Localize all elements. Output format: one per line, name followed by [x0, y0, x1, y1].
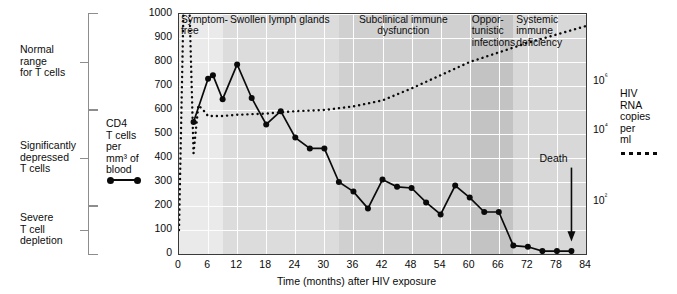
x-tick-78: 78 [541, 258, 571, 270]
hiv-rna-legend-dash [621, 152, 661, 155]
y-tick-800: 800 [128, 54, 172, 66]
y-tick-500: 500 [128, 126, 172, 138]
phase-label-4: Systemic immune deficiency [516, 14, 585, 48]
right-tick-0: 10⁶ [593, 72, 608, 86]
bracket-0 [88, 13, 98, 111]
y-tick-100: 100 [128, 222, 172, 234]
y-tick-400: 400 [128, 150, 172, 162]
x-tick-72: 72 [512, 258, 542, 270]
phase-label-1: Swollen lymph glands [224, 14, 336, 25]
x-tick-24: 24 [279, 258, 309, 270]
y-tick-0: 0 [128, 246, 172, 258]
x-tick-84: 84 [570, 258, 600, 270]
x-tick-54: 54 [425, 258, 455, 270]
plot-area [178, 13, 587, 255]
y-tick-900: 900 [128, 30, 172, 42]
phase-label-0: Symptom- free [181, 14, 221, 37]
x-tick-48: 48 [396, 258, 426, 270]
x-axis-title-text: Time (months) after HIV exposure [277, 275, 436, 287]
hiv-progression-chart: Normal range for T cellsSignificantly de… [0, 0, 677, 294]
right-axis-title: HIV RNA copies per ml [620, 88, 650, 146]
y-tick-700: 700 [128, 78, 172, 90]
right-tick-1: 10⁴ [593, 121, 608, 135]
death-arrow-head [567, 231, 575, 241]
phase-label-3: Oppor- tunistic infections [472, 14, 512, 48]
y-tick-200: 200 [128, 198, 172, 210]
x-tick-6: 6 [192, 258, 222, 270]
bracket-2 [88, 205, 98, 255]
x-tick-60: 60 [454, 258, 484, 270]
phase-label-2: Subclinical immune dysfunction [340, 14, 467, 37]
bracket-label-2: Severe T cell depletion [20, 212, 82, 247]
bracket-1 [88, 109, 98, 207]
x-tick-18: 18 [250, 258, 280, 270]
y-tick-600: 600 [128, 102, 172, 114]
death-label: Death [539, 152, 567, 164]
x-tick-66: 66 [483, 258, 513, 270]
bracket-label-0: Normal range for T cells [20, 44, 82, 79]
x-tick-30: 30 [308, 258, 338, 270]
x-tick-12: 12 [221, 258, 251, 270]
bracket-label-1: Significantly depressed T cells [20, 140, 82, 175]
y-tick-300: 300 [128, 174, 172, 186]
x-tick-36: 36 [337, 258, 367, 270]
right-tick-2: 10² [593, 192, 607, 206]
x-tick-0: 0 [163, 258, 193, 270]
y-tick-1000: 1000 [128, 6, 172, 18]
x-axis-title: Time (months) after HIV exposure [0, 275, 677, 287]
x-tick-42: 42 [367, 258, 397, 270]
